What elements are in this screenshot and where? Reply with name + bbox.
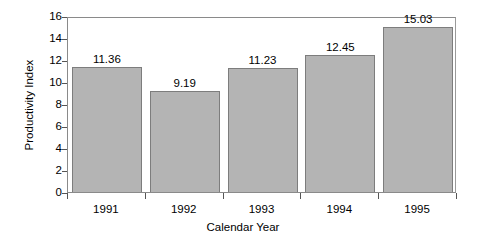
x-tick-label: 1995 xyxy=(404,203,430,215)
bar: 9.19 xyxy=(150,91,220,192)
x-tick-label: 1991 xyxy=(93,203,119,215)
x-tick-mark xyxy=(223,193,224,199)
x-tick-mark xyxy=(456,193,457,199)
bar-value-label: 9.19 xyxy=(173,77,195,89)
y-tick-label: 16 xyxy=(40,11,62,22)
bar-value-label: 11.36 xyxy=(93,53,121,65)
x-tick-label: 1992 xyxy=(171,203,197,215)
y-tick-label: 4 xyxy=(40,143,62,154)
x-tick-mark xyxy=(300,193,301,199)
bar-value-label: 11.23 xyxy=(249,54,277,66)
bar-value-label: 15.03 xyxy=(404,13,433,25)
x-tick-mark xyxy=(145,193,146,199)
y-tick-label: 12 xyxy=(40,55,62,66)
plot-area: 11.369.1911.2312.4515.03 xyxy=(67,17,456,193)
y-tick-label: 8 xyxy=(40,99,62,110)
bar: 11.23 xyxy=(228,68,298,192)
bar-value-label: 12.45 xyxy=(326,41,355,53)
bar-chart: Productivity Index 0246810121416 11.369.… xyxy=(0,0,486,241)
x-tick-mark xyxy=(378,193,379,199)
bar: 11.36 xyxy=(72,67,142,192)
x-axis-title: Calendar Year xyxy=(0,221,486,233)
y-axis-tick-labels: 0246810121416 xyxy=(36,0,62,241)
y-tick-label: 2 xyxy=(40,165,62,176)
bar: 15.03 xyxy=(383,27,453,192)
y-tick-label: 14 xyxy=(40,33,62,44)
y-tick-label: 0 xyxy=(40,187,62,198)
y-tick-label: 6 xyxy=(40,121,62,132)
x-tick-label: 1993 xyxy=(249,203,275,215)
x-tick-label: 1994 xyxy=(327,203,353,215)
bars-container: 11.369.1911.2312.4515.03 xyxy=(68,18,455,192)
y-axis-title: Productivity Index xyxy=(22,17,36,193)
x-tick-mark xyxy=(67,193,68,199)
bar: 12.45 xyxy=(305,55,375,192)
y-tick-label: 10 xyxy=(40,77,62,88)
